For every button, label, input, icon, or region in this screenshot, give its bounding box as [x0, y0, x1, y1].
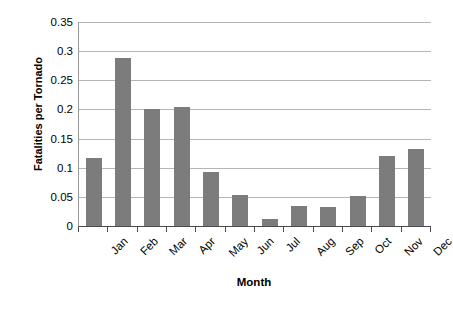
y-axis-tick-label: 0.1 [28, 162, 73, 174]
bar-chart: Fatalities per Tornado 00.050.10.150.20.… [0, 0, 453, 309]
x-axis-tick-label-feb: Feb [138, 235, 161, 258]
bar[interactable] [115, 58, 131, 226]
bar[interactable] [291, 206, 307, 226]
bar-slot [79, 22, 108, 226]
x-axis-tick-mark [283, 227, 284, 232]
x-axis-tick-label-mar: Mar [167, 235, 189, 257]
bar-slot [372, 22, 401, 226]
x-axis-tick-mark [166, 227, 167, 232]
x-axis-title: Month [78, 276, 430, 288]
bar[interactable] [174, 107, 190, 226]
bar[interactable] [232, 195, 248, 226]
y-axis-tick-label: 0 [28, 220, 73, 232]
x-axis-tick-label-jan: Jan [108, 235, 130, 257]
x-axis-tick-mark [401, 227, 402, 232]
bar[interactable] [262, 219, 278, 226]
bar-slot [402, 22, 431, 226]
plot-area [78, 22, 431, 227]
x-axis-tick-mark [107, 227, 108, 232]
x-axis-tick-label-oct: Oct [372, 235, 393, 256]
bar-slot [108, 22, 137, 226]
y-axis-tick-label: 0.05 [28, 191, 73, 203]
x-axis-tick-mark [225, 227, 226, 232]
x-axis-tick-mark [78, 227, 79, 232]
bar-slot [284, 22, 313, 226]
bar-slot [343, 22, 372, 226]
x-axis-tick-label-nov: Nov [402, 235, 425, 258]
x-axis-tick-label-may: May [226, 235, 250, 259]
x-axis-tick-label-dec: Dec [431, 235, 453, 258]
bar[interactable] [320, 207, 336, 226]
x-axis-tick-label-sep: Sep [343, 235, 366, 258]
y-axis-tick-label: 0.2 [28, 103, 73, 115]
x-axis-tick-label-jul: Jul [283, 235, 302, 254]
y-axis-tick-labels: 00.050.10.150.20.250.30.35 [28, 22, 73, 226]
y-axis-tick-label: 0.3 [28, 45, 73, 57]
bar-slot [138, 22, 167, 226]
x-axis-tick-label-aug: Aug [314, 235, 337, 258]
bar-slot [196, 22, 225, 226]
x-axis-tick-label-jun: Jun [255, 235, 277, 257]
y-axis-tick-label: 0.25 [28, 74, 73, 86]
y-axis-tick-label: 0.35 [28, 16, 73, 28]
bar[interactable] [379, 156, 395, 226]
bar[interactable] [408, 149, 424, 226]
bar[interactable] [144, 109, 160, 226]
bar-slot [314, 22, 343, 226]
x-axis-tick-mark [195, 227, 196, 232]
bar[interactable] [203, 172, 219, 226]
x-axis-tick-mark [313, 227, 314, 232]
bar[interactable] [350, 196, 366, 226]
x-axis-tick-labels: JanFebMarAprMayJunJulAugSepOctNovDec [78, 233, 430, 273]
bar-slot [226, 22, 255, 226]
x-axis-tick-mark [430, 227, 431, 232]
bar-slot [255, 22, 284, 226]
bar-slot [167, 22, 196, 226]
x-axis-tick-mark [137, 227, 138, 232]
x-axis-tick-mark [342, 227, 343, 232]
y-axis-tick-label: 0.15 [28, 133, 73, 145]
x-axis-tick-mark [254, 227, 255, 232]
bar[interactable] [86, 158, 102, 226]
bars-layer [79, 22, 431, 226]
x-axis-tick-label-apr: Apr [196, 235, 217, 256]
x-axis-tick-mark [371, 227, 372, 232]
